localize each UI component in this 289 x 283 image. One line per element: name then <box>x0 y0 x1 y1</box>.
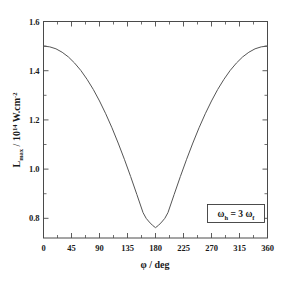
x-tick-label-45: 45 <box>67 243 76 253</box>
chart-plot: 0.81.01.21.41.6 04590135180225270315360 … <box>0 0 289 283</box>
y-axis-title-exponent2: -2 <box>11 93 18 98</box>
x-tick-label-0: 0 <box>41 243 45 253</box>
x-axis-title: φ / deg <box>140 259 169 270</box>
annotation-text: ωh = 3 ωf <box>218 209 256 221</box>
y-axis-title-tail: W.cm <box>11 97 22 124</box>
x-tick-label-315: 315 <box>233 243 246 253</box>
annotation-omega-relation: ωh = 3 ωf <box>208 205 265 223</box>
annotation-omega-h: ω <box>218 209 225 219</box>
y-tick-label-0.8: 0.8 <box>29 213 40 223</box>
y-tick-label-1.2: 1.2 <box>29 115 40 125</box>
figure-canvas: 0.81.01.21.41.6 04590135180225270315360 … <box>0 0 289 283</box>
y-tick-label-1.6: 1.6 <box>29 17 40 27</box>
annotation-equals: = 3 <box>228 209 245 219</box>
y-tick-label-1.4: 1.4 <box>29 66 40 76</box>
y-axis-title-sub: max <box>17 148 24 161</box>
x-tick-label-270: 270 <box>205 243 218 253</box>
x-tick-label-90: 90 <box>95 243 104 253</box>
annotation-omega-f: ω <box>245 209 252 219</box>
x-tick-label-135: 135 <box>121 243 134 253</box>
x-tick-label-360: 360 <box>261 243 274 253</box>
x-tick-label-180: 180 <box>149 243 162 253</box>
x-tick-label-225: 225 <box>177 243 190 253</box>
y-axis-title-rest: / 10 <box>11 131 22 149</box>
y-tick-label-1.0: 1.0 <box>29 164 40 174</box>
